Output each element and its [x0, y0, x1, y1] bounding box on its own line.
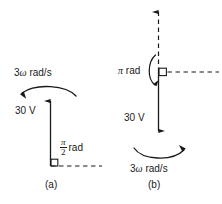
pi-over-two-fraction: π 2	[60, 138, 67, 156]
phasor-diagram-canvas	[0, 0, 222, 204]
panel-a-phase-units: rad	[69, 143, 83, 153]
panel-a-rotation-label: 3ω rad/s	[14, 68, 52, 78]
panel-b-phase-units: rad	[126, 65, 140, 76]
panel-a-rotation-arc	[22, 87, 76, 96]
panel-b-rotation-label: 3ω rad/s	[130, 164, 168, 174]
pi-symbol: π	[118, 65, 123, 76]
panel-b-phase-arc	[149, 55, 155, 85]
fraction-numerator: π	[60, 138, 67, 146]
phasor-figure: 3ω rad/s 30 V π 2 rad (a) π rad 30 V 3ω …	[0, 0, 222, 204]
panel-a-right-angle-marker	[51, 159, 58, 166]
panel-a-magnitude-label: 30 V	[15, 106, 36, 116]
panel-b-caption: (b)	[148, 180, 160, 190]
panel-b-phase-label: π rad	[118, 66, 140, 76]
panel-a-phase-label: π 2 rad	[60, 139, 83, 157]
panel-b-right-angle-marker	[159, 68, 166, 75]
panel-b-rotation-arc	[134, 148, 184, 158]
omega-symbol: ω	[20, 67, 27, 78]
panel-b-rotation-units: rad/s	[145, 163, 167, 174]
panel-a-caption: (a)	[45, 180, 57, 190]
fraction-denominator: 2	[60, 148, 67, 156]
panel-a-rotation-units: rad/s	[29, 67, 51, 78]
omega-symbol-b: ω	[136, 163, 143, 174]
panel-b-magnitude-label: 30 V	[124, 113, 145, 123]
